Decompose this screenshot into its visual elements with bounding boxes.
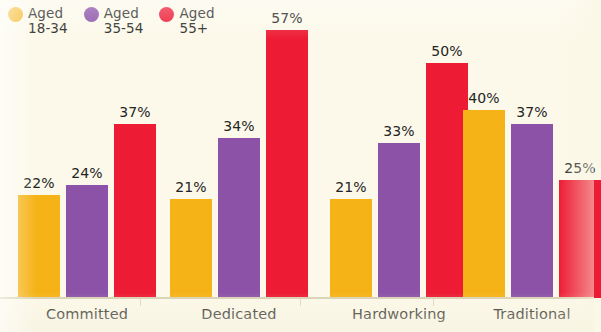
bar-value-label: 34% bbox=[223, 118, 255, 134]
legend-label: Aged 18-34 bbox=[28, 6, 68, 35]
bar-value-label: 37% bbox=[516, 104, 548, 120]
bar-slot: 21% bbox=[170, 1, 212, 298]
bar-slot: 37% bbox=[511, 1, 553, 298]
bar[interactable] bbox=[218, 138, 260, 298]
bar-slot: 50% bbox=[426, 1, 468, 298]
bar-value-label: 22% bbox=[23, 175, 55, 191]
bar-slot: 33% bbox=[378, 1, 420, 298]
bar[interactable] bbox=[559, 180, 601, 298]
bar-value-label: 33% bbox=[383, 123, 415, 139]
x-axis-tick bbox=[433, 298, 434, 306]
bar[interactable] bbox=[378, 143, 420, 298]
bar-slot: 40% bbox=[463, 1, 505, 298]
bar-slot: 57% bbox=[266, 1, 308, 298]
legend-label: Aged 55+ bbox=[179, 6, 214, 35]
bar[interactable] bbox=[426, 63, 468, 298]
bar-value-label: 57% bbox=[271, 10, 303, 26]
bar-slot: 22% bbox=[18, 1, 60, 298]
bar-value-label: 25% bbox=[564, 160, 596, 176]
bar[interactable] bbox=[66, 185, 108, 298]
legend-item-aged-55-plus: Aged 55+ bbox=[159, 6, 214, 35]
bar-value-label: 50% bbox=[431, 43, 463, 59]
bar[interactable] bbox=[463, 110, 505, 298]
bar-slot: 37% bbox=[114, 1, 156, 298]
legend-item-aged-18-34: Aged 18-34 bbox=[8, 6, 68, 35]
bar-slot: 21% bbox=[330, 1, 372, 298]
chart-legend: Aged 18-34 Aged 35-54 Aged 55+ bbox=[8, 6, 215, 35]
bar-slot: 25% bbox=[559, 1, 601, 298]
x-axis-category-label: Hardworking bbox=[352, 306, 446, 322]
x-axis-tick bbox=[300, 298, 301, 306]
bar[interactable] bbox=[266, 30, 308, 298]
circle-marker-icon bbox=[8, 7, 23, 22]
x-axis-category-label: Traditional bbox=[493, 306, 570, 322]
bar-value-label: 40% bbox=[468, 90, 500, 106]
legend-item-aged-35-54: Aged 35-54 bbox=[84, 6, 144, 35]
x-axis-labels: CommittedDedicatedHardworkingTraditional bbox=[0, 298, 594, 332]
x-axis-tick bbox=[140, 298, 141, 306]
x-axis-line bbox=[0, 297, 594, 299]
bar[interactable] bbox=[511, 124, 553, 298]
circle-marker-icon bbox=[84, 7, 99, 22]
bar[interactable] bbox=[18, 195, 60, 298]
x-axis-category-label: Committed bbox=[46, 306, 128, 322]
bar-value-label: 21% bbox=[175, 179, 207, 195]
circle-marker-icon bbox=[159, 7, 174, 22]
legend-label: Aged 35-54 bbox=[104, 6, 144, 35]
bar-value-label: 21% bbox=[335, 179, 367, 195]
bar-slot: 24% bbox=[66, 1, 108, 298]
bar[interactable] bbox=[114, 124, 156, 298]
bar[interactable] bbox=[330, 199, 372, 298]
x-axis-category-label: Dedicated bbox=[201, 306, 276, 322]
bar-value-label: 24% bbox=[71, 165, 103, 181]
bar-value-label: 37% bbox=[119, 104, 151, 120]
plot-area: 22%24%37%21%34%57%21%33%50%40%37%25% bbox=[0, 0, 594, 298]
bar[interactable] bbox=[170, 199, 212, 298]
bar-slot: 34% bbox=[218, 1, 260, 298]
